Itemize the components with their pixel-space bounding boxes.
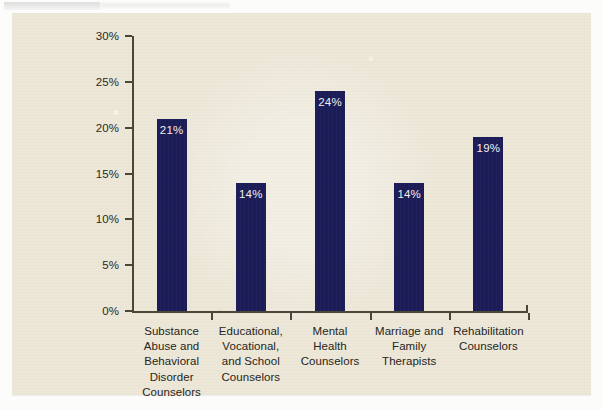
- y-axis-tick: [125, 173, 132, 175]
- category-label-line: Rehabilitation: [449, 324, 528, 339]
- bar-value-label: 19%: [473, 142, 503, 154]
- category-label-line: Counselors: [132, 385, 211, 400]
- scan-artifact-smudge: [4, 2, 100, 10]
- category-label-line: and School: [211, 354, 290, 369]
- category-label-line: Vocational,: [211, 339, 290, 354]
- category-label-line: Abuse and: [132, 339, 211, 354]
- y-axis-tick: [125, 264, 132, 266]
- bar: 24%: [315, 91, 345, 311]
- y-axis-tick-label: 25%: [73, 76, 119, 88]
- x-axis-tick: [528, 313, 530, 320]
- category-label-line: Mental: [290, 324, 369, 339]
- bar: 14%: [236, 183, 266, 311]
- category-label-line: Educational,: [211, 324, 290, 339]
- x-axis-category-label: RehabilitationCounselors: [449, 324, 528, 354]
- y-axis-tick: [125, 218, 132, 220]
- category-label-line: Substance: [132, 324, 211, 339]
- bar-value-label: 14%: [394, 188, 424, 200]
- y-axis-tick: [125, 81, 132, 83]
- bar-value-label: 14%: [236, 188, 266, 200]
- y-axis-tick-label: 0%: [73, 305, 119, 317]
- y-axis-tick-label: 5%: [73, 259, 119, 271]
- screenshot-root: 0%5%10%15%20%25%30% 21%14%24%14%19% Subs…: [0, 0, 603, 410]
- y-axis-tick: [125, 127, 132, 129]
- x-axis-line: [132, 311, 528, 313]
- bar-value-label: 21%: [157, 124, 187, 136]
- category-label-line: Counselors: [211, 370, 290, 385]
- scan-artifact-smudge-secondary: [100, 3, 230, 8]
- category-label-line: Behavioral: [132, 354, 211, 369]
- category-label-line: Counselors: [449, 339, 528, 354]
- x-axis-category-label: Educational,Vocational,and SchoolCounsel…: [211, 324, 290, 385]
- bar: 19%: [473, 137, 503, 311]
- x-axis-tick: [370, 313, 372, 320]
- bar-chart: 0%5%10%15%20%25%30% 21%14%24%14%19% Subs…: [12, 13, 591, 395]
- category-label-line: Marriage and: [370, 324, 449, 339]
- x-axis-category-label: SubstanceAbuse andBehavioralDisorderCoun…: [132, 324, 211, 400]
- y-axis-tick-label: 30%: [73, 30, 119, 42]
- category-label-line: Disorder: [132, 370, 211, 385]
- category-label-line: Therapists: [370, 354, 449, 369]
- bar: 14%: [394, 183, 424, 311]
- y-axis-line: [132, 36, 134, 313]
- y-axis-tick-labels: 0%5%10%15%20%25%30%: [69, 13, 119, 395]
- bar: 21%: [157, 119, 187, 312]
- y-axis-tick: [125, 35, 132, 37]
- x-axis-tick: [290, 313, 292, 320]
- x-axis-tick: [211, 313, 213, 320]
- category-label-line: Family: [370, 339, 449, 354]
- category-label-line: Health: [290, 339, 369, 354]
- x-axis-end-tick: [526, 305, 528, 312]
- x-axis-category-label: MentalHealthCounselors: [290, 324, 369, 370]
- y-axis-tick-label: 20%: [73, 122, 119, 134]
- category-label-line: Counselors: [290, 354, 369, 369]
- y-axis-tick-label: 10%: [73, 213, 119, 225]
- y-axis-tick-label: 15%: [73, 168, 119, 180]
- x-axis-category-label: Marriage andFamilyTherapists: [370, 324, 449, 370]
- x-axis-tick: [449, 313, 451, 320]
- bar-value-label: 24%: [315, 96, 345, 108]
- y-axis-tick: [125, 310, 132, 312]
- chart-paper-panel: 0%5%10%15%20%25%30% 21%14%24%14%19% Subs…: [12, 13, 591, 395]
